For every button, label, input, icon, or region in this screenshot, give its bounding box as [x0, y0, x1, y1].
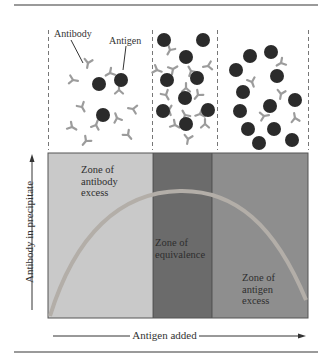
zone-antigen-excess-label: Zone of antigen excess [242, 272, 275, 307]
zone-antibody-excess-label: Zone of antibody excess [81, 164, 118, 199]
antibody-label: Antibody [54, 28, 92, 39]
zone-equivalence-label: Zone of equivalence [155, 237, 205, 260]
antigen-label: Antigen [109, 35, 141, 46]
panel-equivalence [152, 33, 215, 145]
precipitin-diagram [0, 0, 329, 363]
panel-antibody-excess [67, 40, 137, 147]
panel-antigen-excess [229, 45, 302, 150]
y-axis-label: Antibody in precipitate [23, 157, 35, 307]
x-axis-label: Antigen added [0, 329, 329, 341]
x-axis-label-text: Antigen added [130, 329, 198, 341]
